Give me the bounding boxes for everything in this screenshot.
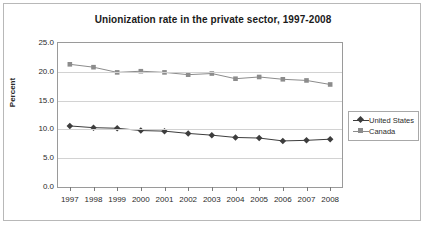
x-tick-mark — [94, 187, 95, 191]
legend-item-canada[interactable]: Canada — [351, 126, 416, 137]
data-point-marker — [186, 72, 191, 77]
x-tick-mark — [141, 187, 142, 191]
gridline — [58, 129, 342, 130]
data-point-marker — [328, 82, 333, 87]
chart-legend: United States Canada — [348, 111, 419, 141]
data-point-marker — [327, 136, 334, 143]
data-point-marker — [232, 134, 239, 141]
x-tick-label: 2008 — [315, 195, 345, 204]
gridline — [58, 101, 342, 102]
data-point-marker — [185, 130, 192, 137]
x-tick-mark — [70, 187, 71, 191]
x-tick-mark — [283, 187, 284, 191]
x-tick-mark — [165, 187, 166, 191]
data-point-marker — [114, 125, 121, 132]
x-tick-mark — [259, 187, 260, 191]
x-tick-mark — [212, 187, 213, 191]
x-tick-mark — [188, 187, 189, 191]
y-tick-label: 5.0 — [24, 153, 54, 162]
gridline — [58, 72, 342, 73]
x-tick-mark — [330, 187, 331, 191]
data-point-marker — [91, 65, 96, 70]
chart-frame: Unionization rate in the private sector,… — [3, 3, 421, 221]
y-tick-label: 0.0 — [24, 182, 54, 191]
legend-label-united-states: United States — [369, 116, 414, 125]
data-point-marker — [68, 62, 73, 67]
plot-area — [57, 42, 343, 188]
y-tick-label: 25.0 — [24, 38, 54, 47]
data-point-marker — [303, 137, 310, 144]
data-point-marker — [256, 135, 263, 142]
data-point-marker — [280, 138, 287, 145]
data-point-marker — [138, 127, 145, 134]
y-axis-title: Percent — [8, 63, 17, 123]
data-point-marker — [304, 78, 309, 83]
series-lines — [58, 43, 342, 187]
x-axis-tick-labels: 1997199819992000200120022003200420052006… — [57, 187, 343, 209]
gridline — [58, 158, 342, 159]
y-tick-label: 20.0 — [24, 66, 54, 75]
legend-item-united-states[interactable]: United States — [351, 115, 416, 126]
series-line-united-states — [70, 126, 330, 141]
data-point-marker — [67, 123, 74, 130]
x-tick-mark — [117, 187, 118, 191]
data-point-marker — [209, 132, 216, 139]
y-tick-label: 10.0 — [24, 124, 54, 133]
x-tick-mark — [236, 187, 237, 191]
data-point-marker — [281, 77, 286, 82]
data-point-marker — [257, 75, 262, 80]
legend-marker-diamond-icon — [353, 116, 369, 125]
data-point-marker — [233, 76, 238, 81]
chart-title: Unionization rate in the private sector,… — [4, 14, 422, 25]
y-tick-label: 15.0 — [24, 95, 54, 104]
legend-label-canada: Canada — [369, 127, 395, 136]
y-axis-tick-labels: 0.05.010.015.020.025.0 — [22, 42, 54, 186]
series-line-canada — [70, 64, 330, 84]
x-tick-mark — [307, 187, 308, 191]
legend-marker-square-icon — [353, 127, 369, 136]
